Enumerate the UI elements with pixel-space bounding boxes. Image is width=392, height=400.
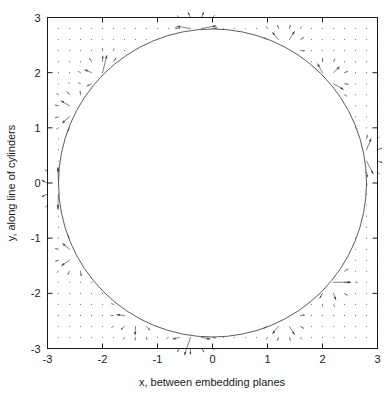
interface-circle — [59, 29, 367, 337]
figure-container: -3-2-10123-3-2-10123 x, between embeddin… — [0, 0, 392, 400]
x-tick-label: -2 — [98, 353, 108, 365]
x-tick-label: 0 — [209, 353, 215, 365]
x-tick-label: -1 — [153, 353, 163, 365]
x-tick-label: -3 — [43, 353, 53, 365]
y-tick-label: 3 — [34, 12, 40, 24]
y-axis-title: y, along line of cylinders — [5, 124, 17, 241]
y-tick-label: 1 — [34, 122, 40, 134]
y-tick-label: 2 — [34, 67, 40, 79]
tick-labels: -3-2-10123-3-2-10123 — [31, 12, 381, 365]
x-tick-label: 2 — [319, 353, 325, 365]
plot-frame — [48, 18, 378, 349]
y-tick-label: 0 — [34, 177, 40, 189]
vector-field-plot: -3-2-10123-3-2-10123 x, between embeddin… — [0, 0, 392, 400]
y-tick-label: -3 — [31, 343, 41, 355]
y-tick-label: -1 — [31, 232, 41, 244]
y-tick-label: -2 — [31, 287, 41, 299]
field-vectors — [42, 12, 382, 355]
x-axis-title: x, between embedding planes — [139, 376, 286, 388]
x-tick-label: 1 — [264, 353, 270, 365]
x-tick-label: 3 — [374, 353, 380, 365]
axis-ticks — [48, 18, 378, 349]
